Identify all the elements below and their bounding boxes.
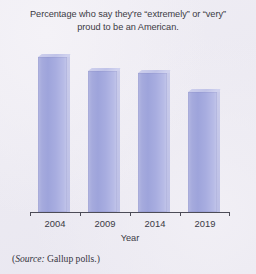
bar-top-face-2019 bbox=[188, 89, 221, 92]
x-axis-label-2019: 2019 bbox=[180, 218, 230, 229]
chart-title: Percentage who say they're “extremely” o… bbox=[8, 8, 248, 33]
x-axis-tick-end bbox=[229, 212, 230, 216]
source-note: (Source: Gallup polls.) bbox=[12, 253, 100, 264]
x-axis-label-2009: 2009 bbox=[80, 218, 130, 229]
bar-top-face-2004 bbox=[38, 54, 71, 57]
x-axis-tick-2 bbox=[130, 212, 131, 216]
source-note-text: Gallup polls. bbox=[45, 253, 97, 264]
bar-side-face-2019 bbox=[217, 92, 220, 212]
bar-side-face-2009 bbox=[117, 71, 120, 212]
bar-2004 bbox=[38, 57, 67, 212]
bar-2009 bbox=[88, 71, 117, 212]
x-axis-tick-3 bbox=[180, 212, 181, 216]
bar-2019 bbox=[188, 92, 217, 212]
chart-title-line-2: proud to be an American. bbox=[8, 21, 248, 34]
bar-top-face-2009 bbox=[88, 68, 121, 71]
x-axis-label-2014: 2014 bbox=[130, 218, 180, 229]
x-axis-title: Year bbox=[30, 233, 230, 243]
x-axis-tick-1 bbox=[80, 212, 81, 216]
bar-side-face-2004 bbox=[67, 57, 70, 212]
chart-title-line-1: Percentage who say they're “extremely” o… bbox=[8, 8, 248, 21]
bar-2014 bbox=[138, 73, 167, 212]
bar-top-face-2014 bbox=[138, 70, 171, 73]
bar-chart-figure: Percentage who say they're “extremely” o… bbox=[0, 0, 256, 274]
source-note-label: Source: bbox=[15, 253, 44, 264]
source-note-close-paren: ) bbox=[97, 253, 100, 264]
bar-side-face-2014 bbox=[167, 73, 170, 212]
plot-area: 90 82 81 70 bbox=[30, 40, 230, 212]
x-axis-tick-start bbox=[30, 212, 31, 216]
x-axis-label-2004: 2004 bbox=[30, 218, 80, 229]
